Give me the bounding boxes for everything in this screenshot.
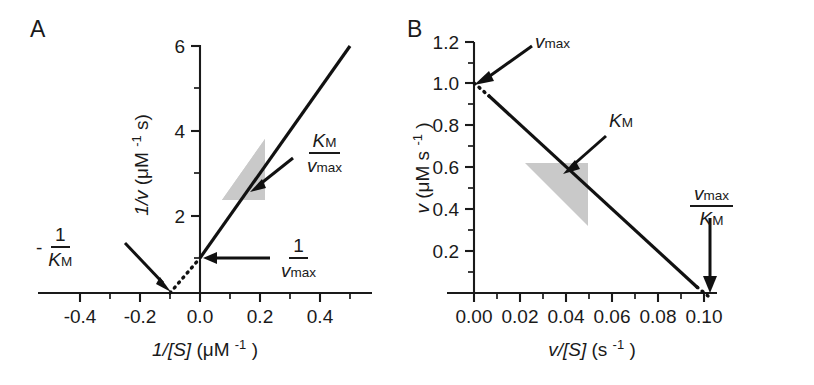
x-ticklabel-b-0: 0.00 bbox=[456, 306, 493, 327]
plot-b: 0.00 0.02 0.04 0.06 0.08 0.10 0.2 0.4 0.… bbox=[407, 0, 814, 385]
y-ticklabel-b-5: 1.2 bbox=[433, 32, 459, 53]
annotation-km-sub: M bbox=[622, 115, 633, 130]
fraction-denominator-sub: max bbox=[291, 265, 317, 280]
y-ticklabel-b-3: 0.8 bbox=[433, 115, 459, 136]
x-axis-title-b-sup: -1 bbox=[613, 337, 625, 352]
x-axis-title-a-sup: -1 bbox=[235, 337, 247, 352]
data-line-b bbox=[488, 95, 698, 288]
annotation-km-base: K bbox=[609, 110, 622, 131]
x-ticklabel-b-5: 0.10 bbox=[686, 306, 723, 327]
x-axis-title-a-units: (μM bbox=[196, 339, 229, 360]
shade-region-b bbox=[525, 163, 588, 226]
y-axis-title-b-tail: ) bbox=[412, 122, 433, 128]
y-ticklabel-b-0: 0.2 bbox=[433, 241, 459, 262]
fraction-denominator-sub: max bbox=[317, 160, 343, 175]
extrapolation-line-a bbox=[170, 258, 200, 293]
annotation-vmax-over-km: vmaxKM bbox=[690, 184, 733, 229]
x-ticklabel-a-0: -0.4 bbox=[64, 306, 97, 327]
x-axis-title-a-main: 1/[S] bbox=[152, 339, 192, 360]
y-axis-title-a: 1/v (μM -1 s) bbox=[124, 114, 152, 216]
annotation-km: KM bbox=[609, 110, 633, 130]
y-ticklabel-b-4: 1.0 bbox=[433, 73, 459, 94]
x-axis-title-a-tail: ) bbox=[252, 339, 258, 360]
panel-lineweaver-burk: A bbox=[0, 0, 407, 385]
fraction-denominator-sub: M bbox=[712, 213, 723, 228]
fraction-denominator-base: v bbox=[307, 155, 317, 176]
annotation-vmax-sub: max bbox=[545, 36, 571, 51]
y-ticklabel-b-1: 0.4 bbox=[433, 199, 460, 220]
annotation-vmax: vmax bbox=[535, 31, 570, 51]
fraction-inv-vmax: 1vmax bbox=[277, 236, 320, 281]
x-axis-title-b-tail: ) bbox=[629, 339, 635, 360]
arrow-head-inv-vmax bbox=[203, 252, 217, 264]
y-axis-title-b: v (μM s -1 ) bbox=[405, 122, 433, 213]
annotation-km-over-vmax: KMvmax bbox=[303, 131, 346, 176]
y-axis-title-a-main: 1/v bbox=[131, 189, 152, 216]
x-axis-title-b-units: (s bbox=[592, 339, 608, 360]
annotation-inv-vmax: 1vmax bbox=[277, 236, 320, 281]
fraction-numerator: 1 bbox=[289, 236, 308, 259]
x-ticklabel-a-1: -0.2 bbox=[124, 306, 157, 327]
plot-a: -0.4 -0.2 0.0 0.2 0.4 2 4 6 1/[S] (μM -1… bbox=[0, 0, 407, 385]
y-axis-title-b-units: (μM s bbox=[412, 151, 433, 199]
x-axis-title-b-main: v/[S] bbox=[548, 339, 587, 360]
annotation-neg-inv-km-minus: - bbox=[36, 238, 44, 257]
arrow-head-vmax-over-km bbox=[703, 276, 717, 293]
fraction-denominator: KM bbox=[696, 207, 728, 229]
x-axis-title-a: 1/[S] (μM -1 ) bbox=[152, 332, 258, 360]
y-axis-title-a-sup: -1 bbox=[129, 135, 144, 147]
y-axis-title-a-units: (μM bbox=[131, 152, 152, 185]
fraction-numerator: KM bbox=[309, 131, 341, 154]
annotation-vmax-base: v bbox=[535, 31, 545, 52]
fraction-km-over-vmax: KMvmax bbox=[303, 131, 346, 176]
arrow-line-neg-inv-km bbox=[125, 243, 163, 283]
extrapolation-line-b-top bbox=[474, 83, 489, 96]
fraction-denominator-base: K bbox=[700, 208, 713, 229]
annotation-km-text: KM bbox=[609, 111, 633, 130]
fraction-denominator: vmax bbox=[303, 154, 346, 176]
fraction-denominator-sub: M bbox=[61, 254, 72, 269]
annotation-vmax-text: vmax bbox=[535, 32, 570, 51]
y-ticklabel-a-0: 2 bbox=[174, 206, 185, 227]
fraction-denominator: vmax bbox=[277, 259, 320, 281]
panel-eadie-hofstee: B bbox=[407, 0, 814, 385]
fraction-numerator-sub: M bbox=[325, 135, 336, 150]
x-ticklabel-a-2: 0.0 bbox=[187, 306, 213, 327]
fraction-denominator-base: K bbox=[48, 249, 61, 270]
x-ticklabel-b-2: 0.04 bbox=[548, 306, 585, 327]
y-axis-title-a-tail: s) bbox=[131, 114, 152, 130]
arrow-head-vmax bbox=[474, 71, 494, 85]
x-ticklabel-a-3: 0.2 bbox=[247, 306, 273, 327]
fraction-numerator-base: K bbox=[313, 130, 326, 151]
y-ticklabel-a-2: 6 bbox=[174, 36, 185, 57]
extrapolation-line-b-bottom bbox=[697, 287, 708, 296]
fraction-numerator: vmax bbox=[690, 184, 733, 207]
x-axis-title-b: v/[S] (s -1 ) bbox=[548, 332, 636, 360]
arrow-line-km bbox=[572, 136, 606, 166]
x-ticklabel-b-4: 0.08 bbox=[640, 306, 677, 327]
annotation-neg-inv-km: -1KM bbox=[36, 225, 76, 270]
fraction-denominator-base: v bbox=[281, 260, 291, 281]
x-ticklabel-b-1: 0.02 bbox=[502, 306, 539, 327]
y-ticklabel-b-2: 0.6 bbox=[433, 157, 459, 178]
fraction-numerator-base: v bbox=[694, 183, 704, 204]
arrow-line-vmax bbox=[487, 46, 532, 78]
fraction-numerator: 1 bbox=[51, 225, 70, 248]
x-ticklabel-b-3: 0.06 bbox=[594, 306, 631, 327]
fraction-numerator-sub: max bbox=[704, 188, 730, 203]
fraction-neg-inv-km: 1KM bbox=[44, 225, 76, 270]
fraction-denominator: KM bbox=[44, 248, 76, 270]
y-axis-title-b-main: v bbox=[412, 203, 433, 214]
x-ticklabel-a-4: 0.4 bbox=[307, 306, 334, 327]
y-ticklabel-a-1: 4 bbox=[174, 121, 185, 142]
figure-root: A bbox=[0, 0, 814, 385]
shade-region-a-fill bbox=[222, 139, 265, 200]
fraction-vmax-over-km: vmaxKM bbox=[690, 184, 733, 229]
y-axis-title-b-sup: -1 bbox=[410, 134, 425, 146]
